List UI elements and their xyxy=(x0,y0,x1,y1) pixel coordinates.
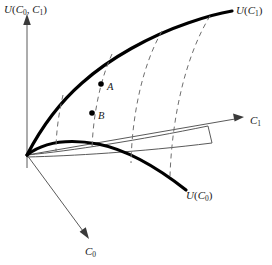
dashed-contour-4 xyxy=(170,16,210,176)
point-a-label: A xyxy=(106,81,114,92)
c0-axis-label: C0 xyxy=(85,245,96,259)
dashed-contour-3 xyxy=(131,31,162,163)
point-b-label: B xyxy=(98,110,105,121)
u-c1-curve-label: U(C1) xyxy=(236,4,263,18)
c0-axis xyxy=(27,155,89,239)
base-line-right-edge xyxy=(208,126,212,143)
utility-axis-label: U(C0, C1) xyxy=(4,3,47,17)
utility-axis xyxy=(23,14,31,168)
point-a: A xyxy=(98,81,114,92)
utility-surface-svg: A B U(C0, C1) C1 C0 U(C1) U(C0) xyxy=(0,0,272,265)
point-a-dot xyxy=(98,81,104,87)
c1-axis-arrowhead xyxy=(233,114,244,122)
point-b: B xyxy=(89,110,105,121)
c0-axis-line xyxy=(27,155,83,231)
dashed-contour-curves xyxy=(56,16,210,176)
point-b-dot xyxy=(89,110,95,116)
u-c0-curve-label: U(C0) xyxy=(186,189,213,203)
c1-axis-label: C1 xyxy=(250,114,261,128)
c1-axis xyxy=(27,114,244,155)
utility-surface-figure: A B U(C0, C1) C1 C0 U(C1) U(C0) xyxy=(0,0,272,265)
